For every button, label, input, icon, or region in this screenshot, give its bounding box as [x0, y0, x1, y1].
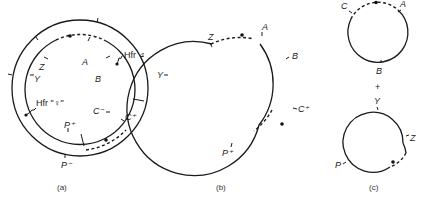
- label-a: A: [81, 57, 88, 67]
- top-circle-dashed: [351, 2, 398, 19]
- label-c-minus: C⁻: [93, 106, 105, 116]
- label-c: C: [341, 1, 348, 11]
- bottom-circle-dashed: [390, 153, 406, 167]
- label-c-plus: C⁺: [298, 104, 310, 114]
- label-hfr-female: Hfr "♀": [36, 98, 64, 108]
- bottom-circle-arc: [403, 143, 406, 153]
- tick-a: [88, 37, 90, 41]
- label-y: Y: [374, 96, 381, 106]
- tick-b: [106, 56, 110, 58]
- tick: [97, 18, 98, 22]
- origin-dot: [68, 34, 72, 38]
- tick-c-plus: [121, 119, 124, 121]
- outer-chromosome-circle: [12, 20, 148, 156]
- bottom-circle-dot: [391, 160, 395, 164]
- tick-p-plus: [231, 143, 232, 147]
- panel-b: Z A B Y C⁺ P⁺ (b): [127, 22, 310, 192]
- top-dashed-segment: [211, 37, 254, 44]
- inner-dashed-segment: [56, 34, 104, 40]
- tick: [8, 74, 12, 75]
- label-p-plus: P⁺: [64, 120, 76, 130]
- top-dot: [240, 33, 244, 37]
- label-b: B: [95, 74, 101, 84]
- tick-z: [406, 135, 409, 136]
- label-a: A: [261, 22, 268, 32]
- top-circle: [348, 10, 408, 62]
- tick-c: [349, 11, 352, 13]
- merged-chromosome-circle: [127, 42, 259, 176]
- panel-c: C A B + Y Z P (c): [335, 0, 416, 192]
- tick-z: [44, 57, 48, 59]
- tick-y: [377, 107, 378, 110]
- caption-a: (a): [57, 183, 67, 192]
- label-p-plus: P⁺: [222, 148, 234, 158]
- caption-c: (c): [369, 183, 379, 192]
- label-p-minus: P⁻: [61, 160, 73, 170]
- label-hfr-male: Hfr ♂: [124, 50, 145, 60]
- tick-p: [343, 162, 346, 164]
- hfr-female-dot: [24, 113, 27, 116]
- inner-chromosome-circle: [25, 40, 135, 144]
- tick-c-plus: [293, 108, 297, 109]
- label-y: Y: [157, 70, 164, 80]
- tick: [36, 37, 38, 40]
- label-z: Z: [409, 133, 416, 143]
- recombination-diagram: Z Y A B C⁻ C⁺ P⁺ P⁻ Hfr ♂ Hfr "♀" (a) Z …: [0, 0, 422, 198]
- label-a: A: [399, 0, 406, 9]
- bottom-dot: [280, 122, 284, 126]
- label-y: Y: [34, 74, 41, 84]
- dot: [104, 138, 108, 142]
- label-z: Z: [38, 62, 45, 72]
- label-z: Z: [207, 32, 214, 42]
- plus-sign: +: [375, 82, 380, 92]
- hfr-male-dot: [115, 62, 118, 65]
- caption-b: (b): [216, 183, 226, 192]
- label-b: B: [292, 51, 298, 61]
- tick-b: [286, 57, 289, 59]
- top-circle-dot: [374, 1, 378, 5]
- label-p: P: [335, 160, 341, 170]
- label-b: B: [376, 66, 382, 76]
